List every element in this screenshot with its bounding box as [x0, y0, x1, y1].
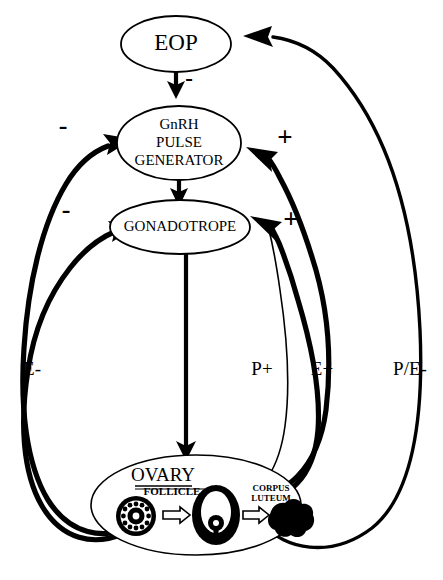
mature-follicle-icon — [192, 485, 240, 545]
sign-left-upper-minus: - — [59, 111, 68, 140]
sign-right-plus-gonadotrope: + — [283, 204, 298, 234]
label-e-negative: E- — [23, 358, 41, 379]
corpus-luteum-label-line2: LUTEUM — [251, 493, 291, 503]
node-gnrh-pulse-generator[interactable]: GnRH PULSE GENERATOR — [117, 106, 241, 180]
sign-left-lower-minus: - — [62, 195, 71, 224]
gnrh-label-line1: GnRH — [159, 116, 198, 132]
arrow-gonadotrope-to-ovary — [176, 254, 196, 461]
p-e-negative-curve — [264, 37, 421, 547]
feedback-diagram-svg: EOP - GnRH PULSE GENERATOR - + GONADOTRO… — [0, 0, 443, 580]
gnrh-label-line2: PULSE — [156, 134, 202, 150]
sign-eop-to-gnrh: - — [185, 66, 193, 91]
label-p-e-negative: P/E- — [393, 358, 427, 379]
gonadotrope-label: GONADOTROPE — [124, 218, 237, 234]
p-e-negative-arrowhead — [243, 26, 273, 47]
node-gonadotrope[interactable]: GONADOTROPE — [110, 200, 250, 254]
follicle-oocyte — [133, 513, 140, 520]
follicle-label: FOLLICLE — [144, 485, 201, 497]
mature-follicle-stalk — [214, 528, 219, 542]
label-e-positive: E+ — [311, 358, 333, 379]
diagram-root: EOP - GnRH PULSE GENERATOR - + GONADOTRO… — [0, 0, 443, 580]
gnrh-label-line3: GENERATOR — [135, 152, 224, 168]
node-eop[interactable]: EOP — [121, 16, 231, 72]
mature-follicle-oocyte — [213, 520, 219, 526]
ovary-label: OVARY — [131, 464, 195, 485]
label-p-positive: P+ — [251, 358, 272, 379]
corpus-luteum-label-line1: CORPUS — [252, 483, 289, 493]
sign-right-plus-gnrh: + — [277, 122, 292, 152]
follicle-icon — [116, 496, 156, 536]
eop-label: EOP — [154, 30, 197, 55]
